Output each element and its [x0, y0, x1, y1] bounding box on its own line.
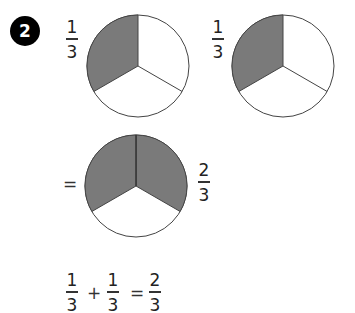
fraction-bar [66, 291, 78, 293]
equals-sign: = [130, 285, 144, 302]
numerator: 1 [67, 19, 78, 37]
fraction-bar [66, 38, 78, 40]
denominator: 3 [67, 297, 78, 313]
numerator: 1 [67, 272, 78, 290]
pie-chart-one-third [86, 14, 190, 118]
denominator: 3 [199, 187, 210, 205]
equation-result: 2 3 [147, 272, 163, 313]
exercise-number-badge: 2 [10, 16, 40, 46]
pie-2-fraction-label: 1 3 [210, 19, 226, 62]
denominator: 3 [67, 44, 78, 62]
denominator: 3 [150, 297, 161, 313]
numerator: 1 [108, 272, 119, 290]
pie-chart-one-third [231, 14, 335, 118]
equation-term-1: 1 3 [64, 272, 80, 313]
fraction-bar [149, 291, 161, 293]
fraction-bar [212, 38, 224, 40]
fraction-bar [198, 181, 210, 183]
fraction-bar [107, 291, 119, 293]
equals-sign: = [63, 176, 77, 193]
numerator: 1 [213, 19, 224, 37]
equation-term-2: 1 3 [105, 272, 121, 313]
pie-3-fraction-label: 2 3 [196, 162, 212, 205]
numerator: 2 [150, 272, 161, 290]
pie-1-fraction-label: 1 3 [64, 19, 80, 62]
pie-chart-two-thirds [84, 134, 188, 238]
denominator: 3 [108, 297, 119, 313]
numerator: 2 [199, 162, 210, 180]
plus-sign: + [87, 285, 101, 302]
denominator: 3 [213, 44, 224, 62]
